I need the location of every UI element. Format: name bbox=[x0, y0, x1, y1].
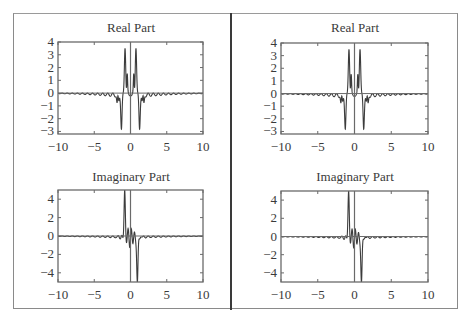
y-tick-label: 4 bbox=[271, 192, 278, 207]
x-tick-label: −10 bbox=[271, 287, 291, 302]
y-tick-label: 2 bbox=[271, 210, 278, 225]
x-tick-label: 10 bbox=[422, 287, 435, 302]
x-tick-label: 0 bbox=[351, 287, 358, 302]
y-tick-label: −4 bbox=[263, 265, 277, 280]
x-tick-label: 5 bbox=[388, 287, 395, 302]
x-tick-label: −5 bbox=[311, 287, 325, 302]
y-tick-label: −2 bbox=[263, 247, 277, 262]
plot-right-imaginary: −10−50510420−2−4 bbox=[0, 0, 469, 323]
y-tick-label: 0 bbox=[271, 229, 278, 244]
